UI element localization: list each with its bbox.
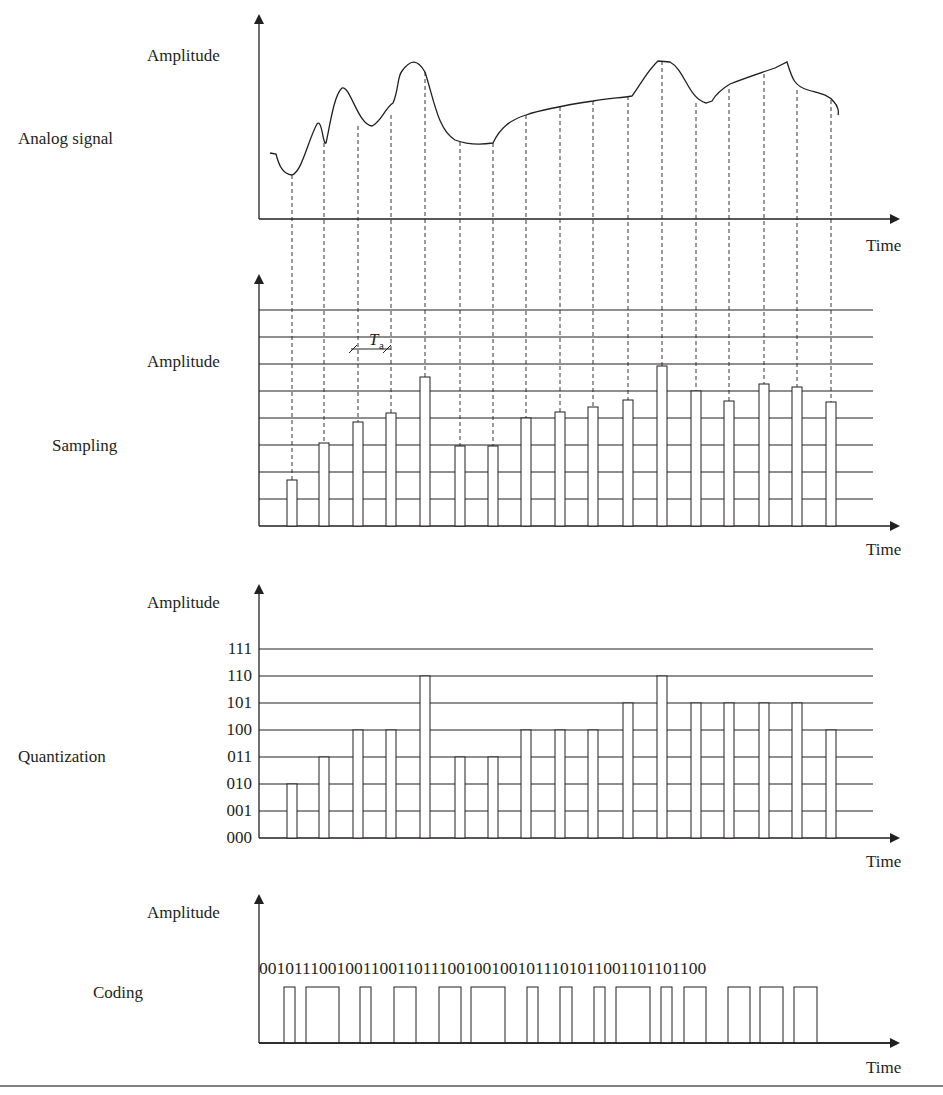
- period-sub: a: [379, 339, 384, 351]
- code-pulse: [439, 987, 461, 1043]
- sample-bar: [555, 412, 565, 526]
- quantized-bar: [826, 730, 836, 838]
- sample-bar: [521, 418, 531, 526]
- sample-bar: [488, 446, 498, 526]
- quantized-bar: [657, 676, 667, 838]
- quantized-bar: [623, 703, 633, 838]
- analog-time-label: Time: [866, 236, 901, 255]
- quantized-bar: [287, 784, 297, 838]
- coding-amplitude-label: Amplitude: [147, 903, 220, 922]
- dynamic-graphics: 000001010011100101110111: [227, 16, 899, 1043]
- quantized-bar: [792, 703, 802, 838]
- code-pulse: [760, 987, 783, 1043]
- quantized-bar: [691, 703, 701, 838]
- analog-signal-label: Analog signal: [18, 129, 113, 148]
- quantization-label: Quantization: [18, 747, 106, 766]
- quantized-bar: [759, 703, 769, 838]
- code-pulse: [616, 987, 650, 1043]
- quantized-bar: [420, 676, 430, 838]
- sample-period-annotation: T a: [349, 330, 391, 353]
- bitstring: 0010111001001100110111001001001011101011…: [259, 958, 706, 978]
- sample-bar: [792, 387, 802, 526]
- adc-diagram: Amplitude Analog signal Time Amplitude S…: [0, 0, 943, 1095]
- level-label-010: 010: [227, 774, 253, 793]
- sample-bar: [287, 480, 297, 526]
- code-pulse: [728, 987, 750, 1043]
- level-label-111: 111: [228, 639, 252, 658]
- sample-bar: [588, 407, 598, 526]
- quantization-time-label: Time: [866, 852, 901, 871]
- code-pulse: [471, 987, 505, 1043]
- code-pulse: [684, 987, 706, 1043]
- sample-bar: [826, 402, 836, 526]
- coding-time-label: Time: [866, 1058, 901, 1077]
- sample-bar: [420, 377, 430, 526]
- quantized-bar: [724, 703, 734, 838]
- quantized-bar: [588, 730, 598, 838]
- quantized-bar: [555, 730, 565, 838]
- sample-bar: [319, 443, 329, 526]
- level-label-000: 000: [227, 828, 253, 847]
- sample-bar: [623, 400, 633, 526]
- sample-bar: [724, 401, 734, 526]
- code-pulse: [284, 987, 295, 1043]
- sample-bar: [691, 391, 701, 526]
- level-label-001: 001: [227, 801, 253, 820]
- code-pulse: [527, 987, 538, 1043]
- sampling-time-label: Time: [866, 540, 901, 559]
- sampling-amplitude-label: Amplitude: [147, 352, 220, 371]
- sample-bar: [455, 446, 465, 526]
- code-pulse: [360, 987, 371, 1043]
- code-pulse: [560, 987, 572, 1043]
- code-pulse: [594, 987, 605, 1043]
- sample-bar: [657, 366, 667, 526]
- code-pulse: [794, 987, 817, 1043]
- quantization-amplitude-label: Amplitude: [147, 593, 220, 612]
- code-pulse: [661, 987, 672, 1043]
- level-label-011: 011: [227, 747, 252, 766]
- analog-amplitude-label: Amplitude: [147, 46, 220, 65]
- code-pulse: [394, 987, 416, 1043]
- sample-bar: [759, 384, 769, 526]
- analog-waveform: [270, 61, 838, 175]
- quantized-bar: [488, 757, 498, 838]
- level-label-101: 101: [227, 693, 253, 712]
- quantized-bar: [521, 730, 531, 838]
- quantized-bar: [386, 730, 396, 838]
- quantized-bar: [353, 730, 363, 838]
- sample-bar: [353, 422, 363, 526]
- coding-label: Coding: [93, 983, 144, 1002]
- level-label-110: 110: [227, 666, 252, 685]
- level-label-100: 100: [227, 720, 253, 739]
- sample-bar: [386, 413, 396, 526]
- quantized-bar: [319, 757, 329, 838]
- sampling-label: Sampling: [52, 436, 118, 455]
- code-pulse: [306, 987, 339, 1043]
- diagram-canvas: Amplitude Analog signal Time Amplitude S…: [0, 0, 943, 1095]
- quantized-bar: [455, 757, 465, 838]
